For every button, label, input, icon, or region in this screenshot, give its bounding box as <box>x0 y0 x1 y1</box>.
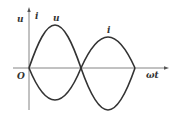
y-axis-label-u: u <box>17 14 24 24</box>
y-axis-arrow-icon <box>27 7 30 12</box>
curve-label-i: i <box>107 25 111 35</box>
waveform-diagram: u i u i O ωt <box>0 0 174 124</box>
x-axis-arrow-icon <box>164 66 169 69</box>
y-axis-label-i: i <box>35 11 39 21</box>
origin-label: O <box>17 71 25 81</box>
curve-label-u: u <box>53 13 60 23</box>
x-axis-label: ωt <box>146 70 160 80</box>
